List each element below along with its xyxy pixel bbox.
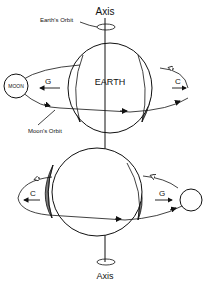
earth-top <box>68 43 152 133</box>
rotation-icon <box>97 24 115 30</box>
moon-label: MOON <box>8 83 24 89</box>
orbit-pointer-line <box>80 22 97 27</box>
top-c-label: C <box>175 77 181 86</box>
earth-label: EARTH <box>95 77 125 87</box>
moon-bottom <box>180 189 202 211</box>
bottom-axis-label: Axis <box>96 271 114 281</box>
bottom-g-label: G <box>159 189 165 198</box>
moon-orbit-label: Moon's Orbit <box>28 128 62 134</box>
bottom-panel: C G Axis <box>18 148 202 281</box>
top-axis-label: Axis <box>96 6 115 17</box>
bottom-c-label: C <box>30 189 36 198</box>
top-g-label: G <box>45 77 51 86</box>
moon-orbit-right <box>160 68 188 88</box>
earths-orbit-label: Earth's Orbit <box>40 17 73 23</box>
tidal-bulge-diagram: Axis Earth's Orbit EARTH MOON G C Moon's… <box>0 0 206 283</box>
rotation-icon-bottom <box>97 259 115 265</box>
earth-bottom <box>52 148 142 236</box>
moon-orbit-pointer <box>38 110 55 125</box>
top-panel: Axis Earth's Orbit EARTH MOON G C Moon's… <box>4 6 188 134</box>
